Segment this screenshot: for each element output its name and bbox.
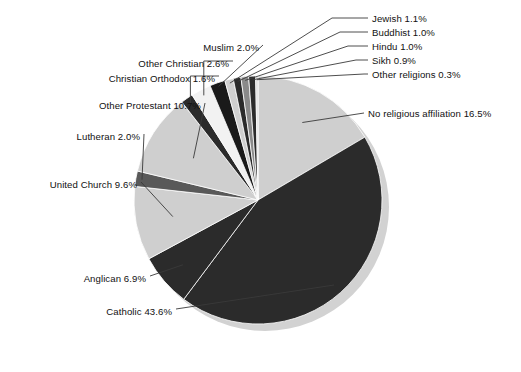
slice-label: Christian Orthodox 1.6% [109,73,215,84]
pie-slices-group [134,76,382,324]
slice-label: Other Protestant 10.7% [99,100,201,111]
slice-label: Catholic 43.6% [106,306,172,317]
slice-label: Lutheran 2.0% [77,131,140,142]
slice-label: Hindu 1.0% [372,41,422,52]
slice-label: Anglican 6.9% [84,273,146,284]
pie-chart-figure: Jewish 1.1%Buddhist 1.0%Hindu 1.0%Sikh 0… [0,0,521,372]
slice-label: United Church 9.6% [50,179,137,190]
slice-label: Muslim 2.0% [203,42,259,53]
slice-label: Other Christian 2.6% [138,58,229,69]
slice-label: Buddhist 1.0% [372,27,435,38]
slice-label: Jewish 1.1% [372,13,427,24]
slice-label: Other religions 0.3% [372,69,461,80]
slice-label: Sikh 0.9% [372,55,416,66]
leader-line [238,32,368,82]
slice-label: No religious affiliation 16.5% [368,108,491,119]
leader-line [245,46,368,80]
